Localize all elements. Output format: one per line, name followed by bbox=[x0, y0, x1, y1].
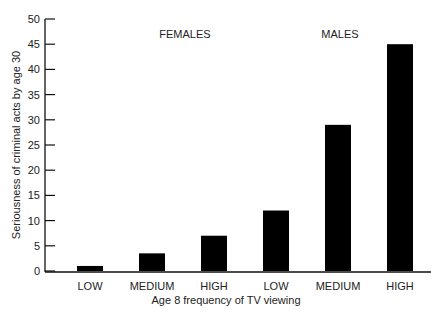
y-tick-label: 40 bbox=[28, 63, 40, 75]
bar bbox=[325, 125, 351, 271]
y-tick-label: 45 bbox=[28, 38, 40, 50]
bar bbox=[201, 236, 227, 271]
y-axis-title: Seriousness of criminal acts by age 30 bbox=[10, 51, 22, 239]
bars bbox=[77, 44, 413, 271]
group-label-females: FEMALES bbox=[159, 28, 210, 40]
y-tick-label: 20 bbox=[28, 164, 40, 176]
y-tick-label: 10 bbox=[28, 215, 40, 227]
x-category-label: LOW bbox=[77, 280, 103, 292]
y-tick-label: 50 bbox=[28, 13, 40, 25]
y-tick-label: 15 bbox=[28, 189, 40, 201]
bar-chart: 05101520253035404550 Seriousness of crim… bbox=[0, 0, 443, 315]
y-tick-label: 0 bbox=[34, 265, 40, 277]
y-tick-label: 30 bbox=[28, 114, 40, 126]
y-axis: 05101520253035404550 bbox=[28, 13, 55, 277]
group-label-males: MALES bbox=[321, 28, 358, 40]
bar bbox=[139, 253, 165, 271]
x-category-label: MEDIUM bbox=[130, 280, 175, 292]
x-category-label: HIGH bbox=[200, 280, 228, 292]
bar bbox=[387, 44, 413, 271]
y-tick-label: 35 bbox=[28, 89, 40, 101]
y-tick-label: 25 bbox=[28, 139, 40, 151]
x-axis-title: Age 8 frequency of TV viewing bbox=[152, 294, 301, 306]
x-category-label: MEDIUM bbox=[316, 280, 361, 292]
bar bbox=[263, 211, 289, 271]
bar bbox=[77, 266, 103, 271]
x-category-label: HIGH bbox=[386, 280, 414, 292]
y-tick-label: 5 bbox=[34, 240, 40, 252]
x-category-label: LOW bbox=[263, 280, 289, 292]
